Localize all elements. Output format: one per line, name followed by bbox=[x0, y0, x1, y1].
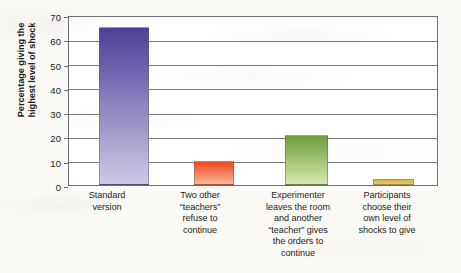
y-axis-tick-mark bbox=[64, 41, 68, 42]
bar-4 bbox=[373, 179, 414, 185]
y-axis-tick-label: 50 bbox=[50, 60, 61, 71]
x-axis-label-line: version bbox=[72, 202, 142, 214]
y-axis-title: Percentage giving the highest level of s… bbox=[16, 0, 50, 150]
x-axis-label-line: continue bbox=[248, 248, 348, 260]
x-axis-label-2: Two other“teachers”refuse tocontinue bbox=[165, 190, 235, 236]
y-axis-tick-mark bbox=[64, 138, 68, 139]
x-axis-label-line: “teacher” gives bbox=[248, 225, 348, 237]
y-axis-tick-mark bbox=[64, 66, 68, 67]
y-axis-tick-mark bbox=[64, 90, 68, 91]
x-axis-label-3: Experimenterleaves the roomand another“t… bbox=[248, 190, 348, 260]
y-axis-tick-label: 20 bbox=[50, 133, 61, 144]
bar-1 bbox=[99, 27, 149, 185]
x-axis-label-line: refuse to bbox=[165, 213, 235, 225]
x-axis-label-line: Experimenter bbox=[248, 190, 348, 202]
x-axis-label-line: Two other bbox=[165, 190, 235, 202]
y-axis-tick-mark bbox=[64, 163, 68, 164]
y-axis-title-line-1: Percentage giving the bbox=[16, 0, 27, 150]
y-axis-tick-mark bbox=[64, 114, 68, 115]
x-axis-label-line: Participants bbox=[344, 190, 430, 202]
y-axis-tick-label: 30 bbox=[50, 109, 61, 120]
plot-area: 010203040506070 bbox=[68, 16, 438, 186]
y-axis-tick-label: 10 bbox=[50, 157, 61, 168]
y-axis-tick-label: 60 bbox=[50, 36, 61, 47]
y-axis-title-line-2: highest level of shock bbox=[27, 0, 38, 150]
x-axis-label-1: Standardversion bbox=[72, 190, 142, 213]
x-axis-label-line: own level of bbox=[344, 213, 430, 225]
x-axis-label-line: and another bbox=[248, 213, 348, 225]
x-axis-label-line: Standard bbox=[72, 190, 142, 202]
x-axis-label-line: shocks to give bbox=[344, 225, 430, 237]
bar-3 bbox=[285, 135, 328, 185]
x-axis-label-line: the orders to bbox=[248, 236, 348, 248]
x-axis-label-4: Participantschoose theirown level ofshoc… bbox=[344, 190, 430, 236]
x-axis-label-line: choose their bbox=[344, 202, 430, 214]
y-axis-tick-mark bbox=[64, 17, 68, 18]
x-axis-label-line: continue bbox=[165, 225, 235, 237]
y-axis-tick-label: 70 bbox=[50, 12, 61, 23]
bar-chart-figure: Percentage giving the highest level of s… bbox=[0, 0, 461, 273]
x-axis-label-line: “teachers” bbox=[165, 202, 235, 214]
y-axis-tick-label: 40 bbox=[50, 84, 61, 95]
y-axis-tick-label: 0 bbox=[56, 182, 61, 193]
bar-2 bbox=[194, 161, 234, 185]
x-axis-label-line: leaves the room bbox=[248, 202, 348, 214]
y-axis-tick-mark bbox=[64, 187, 68, 188]
